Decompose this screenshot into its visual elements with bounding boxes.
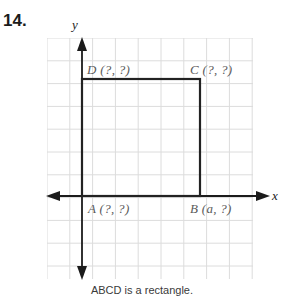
vertex-label-c-text: C (?, ?)	[190, 62, 232, 77]
figure-caption: ABCD is a rectangle.	[0, 284, 284, 296]
vertex-label-d-text: D (?, ?)	[87, 62, 130, 77]
y-axis-label: y	[72, 18, 78, 31]
vertex-label-a-text: A (?, ?)	[88, 201, 130, 216]
x-axis-label: x	[272, 189, 278, 202]
vertex-label-a: A (?, ?)	[88, 202, 130, 215]
vertex-label-b: B (a, ?)	[190, 202, 232, 215]
vertex-label-b-text: B (a, ?)	[190, 201, 232, 216]
rectangle-abcd	[82, 79, 200, 196]
vertex-label-d: D (?, ?)	[87, 63, 130, 76]
vertex-label-c: C (?, ?)	[190, 63, 232, 76]
